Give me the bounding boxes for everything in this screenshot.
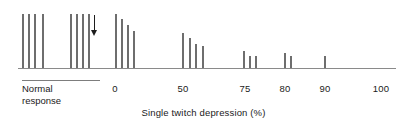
bar — [290, 56, 292, 68]
x-axis-tick-label: 80 — [270, 83, 300, 94]
x-axis-tick-label: 100 — [366, 83, 396, 94]
arrow-shaft — [94, 15, 95, 30]
bar — [202, 46, 204, 68]
bar — [324, 56, 326, 68]
x-axis-line — [18, 68, 396, 69]
bar — [195, 44, 197, 68]
bar — [28, 14, 30, 68]
x-axis-tick-label: 0 — [100, 83, 130, 94]
bar — [22, 14, 24, 68]
bar — [189, 38, 191, 68]
x-axis-tick-label: 90 — [310, 83, 340, 94]
bar — [42, 14, 44, 68]
bar — [70, 14, 72, 68]
bar — [243, 51, 245, 68]
bar — [115, 14, 117, 68]
bar — [284, 53, 286, 68]
plot-area: Normal response 050758090100 Single twit… — [0, 0, 407, 126]
bar — [127, 25, 129, 68]
bar — [121, 19, 123, 68]
x-axis-title: Single twitch depression (%) — [0, 107, 407, 118]
normal-response-line-2: response — [22, 95, 61, 107]
x-axis-tick-label: 50 — [168, 83, 198, 94]
bar — [82, 14, 84, 68]
arrow-head — [91, 30, 97, 36]
normal-response-label: Normal response — [22, 83, 61, 106]
bar — [76, 14, 78, 68]
bar — [88, 14, 90, 68]
normal-response-line-1: Normal — [22, 83, 61, 95]
bar — [255, 56, 257, 68]
bar — [249, 56, 251, 68]
x-axis-tick-label: 75 — [230, 83, 260, 94]
bar — [182, 33, 184, 68]
bar — [34, 14, 36, 68]
normal-response-rule — [22, 80, 100, 81]
bar — [133, 31, 135, 68]
chart-figure: Normal response 050758090100 Single twit… — [0, 0, 407, 126]
